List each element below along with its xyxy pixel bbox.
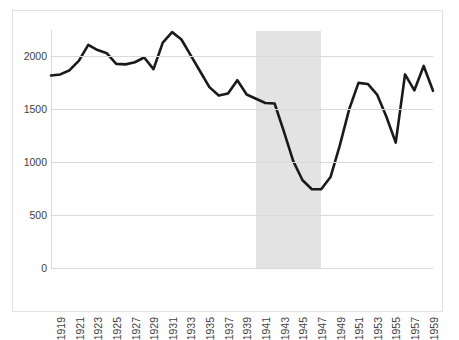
x-tick-label-1943: 1943 [279,317,291,340]
gridline-2000 [51,56,433,57]
y-tick-label-1500: 1500 [24,103,47,115]
chart-frame: 0500100015002000 19191921192319251927192… [12,10,443,312]
x-tick-label-1951: 1951 [353,317,365,340]
x-tick-label-1925: 1925 [111,317,123,340]
x-tick-label-1919: 1919 [55,317,67,340]
x-tick-label-1939: 1939 [241,317,253,340]
line-series [51,30,433,268]
x-axis-line [51,268,433,269]
x-tick-label-1949: 1949 [335,317,347,340]
x-tick-label-1957: 1957 [409,317,421,340]
y-tick-label-2000: 2000 [24,50,47,62]
gridline-1000 [51,162,433,163]
x-tick-label-1921: 1921 [74,317,86,340]
gridline-500 [51,215,433,216]
x-tick-label-1959: 1959 [428,317,440,340]
x-tick-label-1953: 1953 [372,317,384,340]
y-tick-label-0: 0 [41,262,47,274]
gridline-1500 [51,109,433,110]
x-tick-label-1929: 1929 [148,317,160,340]
x-tick-label-1955: 1955 [390,317,402,340]
x-tick-label-1933: 1933 [185,317,197,340]
x-tick-label-1923: 1923 [92,317,104,340]
x-axis-tick-labels: 1919192119231925192719291931193319351937… [51,271,433,321]
y-axis-tick-labels: 0500100015002000 [13,30,47,268]
plot-area [51,30,433,268]
x-tick-label-1937: 1937 [223,317,235,340]
x-tick-label-1931: 1931 [167,317,179,340]
y-tick-label-1000: 1000 [24,156,47,168]
x-tick-label-1941: 1941 [260,317,272,340]
x-tick-label-1947: 1947 [316,317,328,340]
x-tick-label-1927: 1927 [130,317,142,340]
y-tick-label-500: 500 [29,209,47,221]
x-tick-label-1945: 1945 [297,317,309,340]
x-tick-label-1935: 1935 [204,317,216,340]
